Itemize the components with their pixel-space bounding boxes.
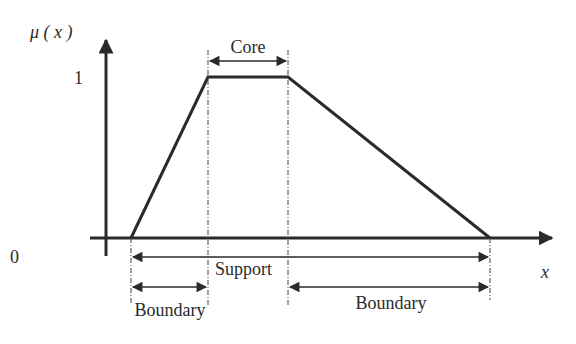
x-axis-label: x xyxy=(540,262,549,282)
boundary-left-label: Boundary xyxy=(135,300,206,320)
support-label: Support xyxy=(215,259,272,279)
y-axis-label: μ ( x ) xyxy=(29,22,73,43)
core-label: Core xyxy=(231,37,266,57)
boundary-right-label: Boundary xyxy=(356,293,427,313)
guide-lines xyxy=(131,50,490,305)
membership-curve xyxy=(131,77,490,238)
membership-diagram: μ ( x ) 1 0 x Core Support Boundary Boun… xyxy=(0,0,576,344)
tick-zero: 0 xyxy=(10,247,19,267)
tick-one: 1 xyxy=(74,68,83,88)
